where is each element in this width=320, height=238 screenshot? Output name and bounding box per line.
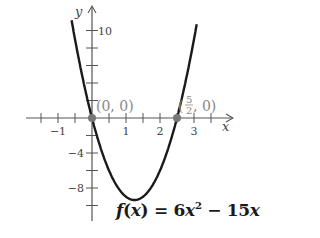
function-formula: f(x) = 6x2 − 15x: [116, 200, 260, 220]
svg-text:−1: −1: [50, 125, 66, 138]
svg-text:10: 10: [98, 25, 112, 38]
svg-text:3: 3: [191, 125, 198, 138]
origin-point-label: (0, 0): [96, 98, 134, 114]
svg-text:2: 2: [186, 105, 192, 116]
svg-text:, 0): , 0): [193, 98, 216, 114]
svg-text:5: 5: [186, 94, 192, 105]
x-axis-label: x: [222, 119, 230, 134]
svg-text:−8: −8: [68, 182, 84, 195]
svg-text:1: 1: [123, 125, 130, 138]
svg-text:(: (: [178, 98, 183, 114]
root-point-label: ( 5 2 , 0): [178, 94, 216, 116]
svg-text:−4: −4: [68, 147, 84, 160]
y-axis-label: y: [74, 4, 83, 19]
svg-text:2: 2: [157, 125, 164, 138]
